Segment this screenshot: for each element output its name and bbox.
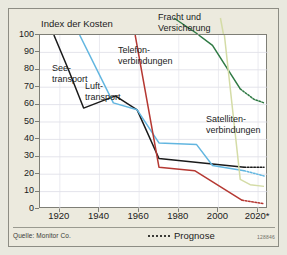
series-forecast-telefonverbindungen xyxy=(242,200,264,203)
y-tick-label: 50 xyxy=(8,117,34,126)
y-tick-label: 10 xyxy=(8,186,34,195)
y-tick-label: 80 xyxy=(8,64,34,73)
x-tick-label: 2020* xyxy=(237,211,277,221)
series-line-fracht-und-versicherung xyxy=(199,35,241,89)
series-forecast-lufttransport xyxy=(244,171,264,176)
x-tick-label: 1980 xyxy=(158,211,198,221)
dotted-line-icon xyxy=(148,235,170,237)
y-tick-label: 100 xyxy=(8,30,34,39)
y-tick-label: 90 xyxy=(8,47,34,56)
series-label-lufttransport: Luft- transport xyxy=(85,81,121,102)
series-label-seetransport: See- transport xyxy=(52,63,88,84)
y-tick-label: 40 xyxy=(8,134,34,143)
y-tick-label: 70 xyxy=(8,82,34,91)
figure-code: 128846 xyxy=(257,234,275,240)
y-tick-mark xyxy=(35,208,39,209)
y-tick-label: 0 xyxy=(8,204,34,213)
series-label-fracht-und-versicherung: Fracht und Versicherung xyxy=(158,12,211,33)
x-tick-label: 1940 xyxy=(78,211,118,221)
source-note: Quelle: Monitor Co. xyxy=(13,232,71,239)
series-label-satellitenverbindungen: Satelliten- verbindungen xyxy=(206,114,261,135)
x-tick-label: 1920 xyxy=(39,211,79,221)
legend-label-prognose: Prognose xyxy=(174,230,215,241)
series-label-telefonverbindungen: Telefon- verbindungen xyxy=(118,45,173,66)
series-forecast-fracht-und-versicherung xyxy=(240,89,264,103)
x-tick-label: 2000 xyxy=(197,211,237,221)
x-tick-label: 1960 xyxy=(118,211,158,221)
legend-forecast: Prognose xyxy=(148,230,215,241)
chart-figure: Index der Kosten 0102030405060708090100 … xyxy=(0,0,287,255)
y-tick-label: 30 xyxy=(8,151,34,160)
footer-divider xyxy=(13,227,275,228)
y-axis-title: Index der Kosten xyxy=(41,18,113,29)
y-tick-label: 20 xyxy=(8,169,34,178)
y-tick-label: 60 xyxy=(8,99,34,108)
